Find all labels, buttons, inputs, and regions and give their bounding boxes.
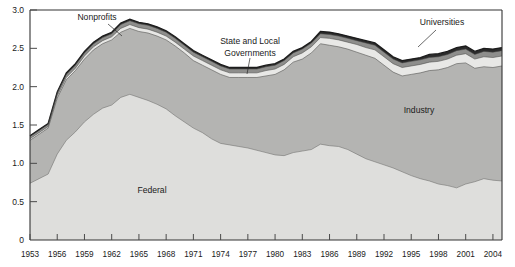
- rd-spending-area-chart: 00.51.01.52.02.53.0 19531956195919621965…: [0, 0, 515, 267]
- x-tick-label: 1977: [239, 250, 258, 259]
- x-tick-label: 1971: [184, 250, 203, 259]
- y-tick-label: 0.5: [12, 197, 24, 207]
- x-tick-label: 1974: [212, 250, 231, 259]
- x-tick-label: 2004: [484, 250, 503, 259]
- x-tick-label: 1989: [348, 250, 367, 259]
- x-tick-label: 1995: [402, 250, 421, 259]
- x-tick-label: 1980: [266, 250, 285, 259]
- x-tick-label: 1959: [75, 250, 94, 259]
- x-tick-label: 1998: [429, 250, 448, 259]
- x-tick-label: 1956: [48, 250, 67, 259]
- x-tick-label: 1983: [293, 250, 312, 259]
- x-tick-label: 1992: [375, 250, 394, 259]
- y-tick-label: 0: [19, 235, 24, 245]
- y-tick-label: 2.5: [12, 43, 24, 53]
- label-state-and-local-governments-line2: Governments: [224, 48, 276, 58]
- chart-canvas: 00.51.01.52.02.53.0 19531956195919621965…: [0, 0, 515, 267]
- y-tick-label: 2.0: [12, 82, 24, 92]
- x-tick-label: 2001: [457, 250, 476, 259]
- label-nonprofits: Nonprofits: [77, 12, 116, 22]
- x-tick-label: 1953: [21, 250, 40, 259]
- x-tick-label: 1986: [320, 250, 339, 259]
- label-federal: Federal: [137, 185, 166, 195]
- x-tick-label: 1962: [103, 250, 122, 259]
- x-tick-label: 1968: [157, 250, 176, 259]
- y-tick-label: 3.0: [12, 5, 24, 15]
- label-state-and-local-governments: State and Local: [220, 36, 280, 46]
- label-universities: Universities: [420, 17, 464, 27]
- y-tick-label: 1.0: [12, 158, 24, 168]
- y-tick-label: 1.5: [12, 120, 24, 130]
- label-industry: Industry: [404, 105, 435, 115]
- x-tick-label: 1965: [130, 250, 149, 259]
